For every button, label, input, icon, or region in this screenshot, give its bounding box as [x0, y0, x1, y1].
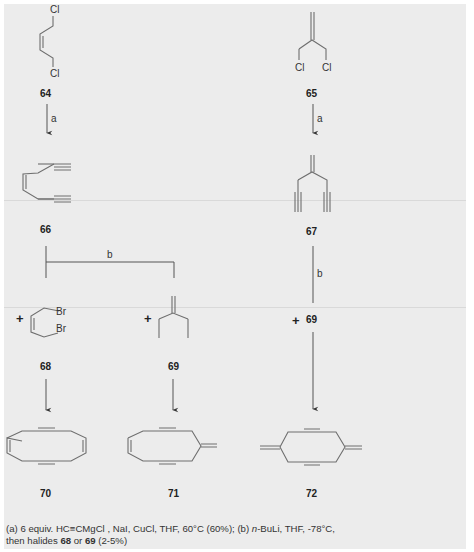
compound-label: 68: [40, 361, 52, 372]
compound-64: Cl Cl 64: [40, 4, 59, 99]
caption-text: (a) 6 equiv. HC: [6, 523, 70, 534]
compound-label: 64: [40, 88, 52, 99]
compound-67: 67: [295, 155, 330, 237]
compound-label: 65: [306, 88, 318, 99]
compound-66: [23, 164, 71, 202]
arrow-label-b: b: [107, 249, 113, 260]
compound-69: + 69: [144, 296, 188, 372]
chlorine-label: Cl: [295, 62, 304, 73]
chlorine-label: Cl: [50, 4, 59, 15]
bromine-label: Br: [56, 306, 67, 317]
reaction-scheme: Cl Cl 64 a Cl Cl 65 a 66 b 67: [0, 0, 474, 552]
compound-ref: 68: [60, 535, 71, 546]
compound-65: Cl Cl 65: [295, 12, 331, 99]
caption-text: (2-5%): [96, 535, 127, 546]
compound-ref: 69: [85, 535, 96, 546]
compound-68: + Br Br 68: [16, 306, 67, 372]
compound-label: 67: [306, 226, 318, 237]
arrow-label-a: a: [317, 113, 323, 124]
compound-70: [7, 428, 86, 464]
compound-label: 70: [40, 488, 52, 499]
compound-71: [128, 428, 217, 464]
compound-label: 72: [306, 488, 318, 499]
compound-label: 69: [306, 314, 318, 325]
compound-label: 71: [168, 488, 180, 499]
plus-sign: +: [16, 311, 24, 326]
compound-label: 66: [40, 224, 52, 235]
arrow-label-b: b: [317, 268, 323, 279]
plus-sign: +: [144, 311, 152, 326]
chlorine-label: Cl: [322, 62, 331, 73]
caption-text: or: [71, 535, 85, 546]
caption-text: -BuLi, THF, -78°C,: [257, 523, 335, 534]
caption-text: then halides: [6, 535, 60, 546]
caption-text: CMgCl , NaI, CuCl, THF, 60°C (60%); (b): [75, 523, 251, 534]
bromine-label: Br: [56, 323, 67, 334]
arrow-label-a: a: [51, 113, 57, 124]
chlorine-label: Cl: [50, 68, 59, 79]
plus-sign: +: [292, 313, 300, 328]
reaction-conditions-caption: (a) 6 equiv. HC≡CMgCl , NaI, CuCl, THF, …: [6, 523, 466, 546]
compound-label: 69: [168, 361, 180, 372]
compound-72: [260, 429, 362, 465]
